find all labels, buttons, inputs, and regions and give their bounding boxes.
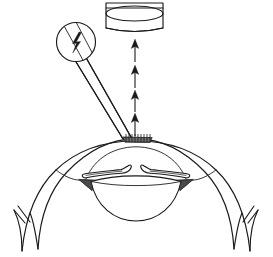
break-mark-left-1 [14,210,25,223]
sclera-tail-right-outer [234,213,242,249]
cylinder-body [106,3,163,32]
break-mark-right-2 [243,206,254,222]
break-mark-left-2 [18,206,30,222]
contact-footprint [123,137,152,142]
energy-arrow-1 [131,39,139,62]
energy-arrow-stack [131,39,139,136]
crystalline-lens [91,176,181,221]
energy-arrow-4 [131,113,139,136]
probe-head-circle [57,22,97,62]
lens-shape [91,176,181,221]
figure-canvas: Anterior eye segment with transscleral p… [0,0,273,257]
target-cylinder [106,3,163,32]
energy-arrow-2 [131,65,139,88]
sclera-tail-left-outer [30,213,38,249]
probe-shaft-edge-right [80,47,131,137]
eye-diagram-svg [0,0,273,257]
probe-shaft-edge-left [70,52,123,139]
sclera-tail-left-inner [14,210,22,251]
energy-arrow-3 [131,90,139,112]
sclera-tail-right-inner [250,210,258,251]
